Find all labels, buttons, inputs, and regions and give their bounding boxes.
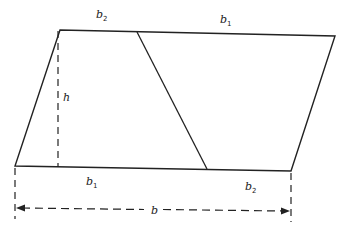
dimension-line-left (22, 208, 144, 210)
label-top-b1: b1 (220, 13, 232, 28)
label-bottom-b2: b2 (245, 180, 257, 195)
dimension-line-right (163, 210, 284, 212)
label-height: h (63, 91, 70, 104)
label-top-b2: b2 (96, 8, 108, 23)
label-total-b: b (151, 204, 158, 217)
divider-line (137, 32, 207, 169)
arrowhead-right-icon (281, 208, 290, 215)
arrowhead-left-icon (16, 205, 25, 212)
label-bottom-b1: b1 (86, 175, 98, 190)
parallelogram-diagram: b2 b1 h b1 b2 b (0, 0, 342, 232)
